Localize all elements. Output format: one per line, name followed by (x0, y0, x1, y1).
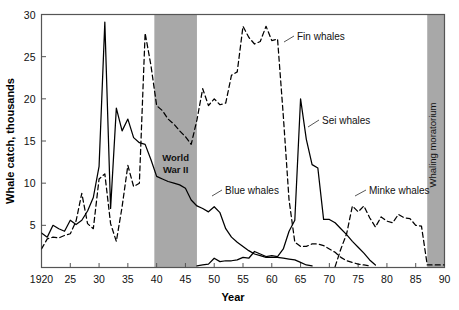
x-tick-label: 25 (64, 273, 76, 285)
x-tick-label: 85 (410, 273, 422, 285)
y-tick-label: 5 (30, 219, 36, 231)
whale-catch-chart: WorldWar IIWhaling moratorium 1920253035… (0, 0, 459, 310)
series-label-fin-whales: Fin whales (297, 31, 345, 42)
x-tick-label: 65 (295, 273, 307, 285)
x-tick-label: 60 (266, 273, 278, 285)
series-label-blue-whales: Blue whales (225, 185, 279, 196)
x-tick-label: 70 (324, 273, 336, 285)
band-label-whaling-moratorium: Whaling moratorium (427, 102, 438, 187)
y-axis-title: Whale catch, thousands (4, 78, 16, 204)
series-label-minke-whales: Minke whales (369, 185, 430, 196)
x-tick-label: 75 (352, 273, 364, 285)
series-label-sei-whales: Sei whales (322, 115, 370, 126)
band-label-world-war-ii: World (162, 152, 189, 163)
x-tick-label: 90 (439, 273, 451, 285)
chart-canvas: WorldWar IIWhaling moratorium 1920253035… (0, 0, 459, 310)
x-tick-label: 55 (237, 273, 249, 285)
y-tick-label: 25 (24, 51, 36, 63)
y-tick-label: 15 (24, 135, 36, 147)
y-tick-label: 30 (24, 9, 36, 21)
x-tick-label: 30 (93, 273, 105, 285)
chart-background (0, 0, 459, 310)
x-tick-label: 40 (151, 273, 163, 285)
x-tick-label: 50 (208, 273, 220, 285)
y-tick-label: 10 (24, 177, 36, 189)
band-label-world-war-ii: War II (163, 164, 189, 175)
x-tick-label: 1920 (30, 273, 54, 285)
y-tick-label: 20 (24, 93, 36, 105)
x-tick-label: 80 (381, 273, 393, 285)
x-tick-label: 45 (180, 273, 192, 285)
x-tick-label: 35 (122, 273, 134, 285)
x-axis-title: Year (221, 291, 245, 303)
band-world-war-ii (154, 15, 197, 268)
